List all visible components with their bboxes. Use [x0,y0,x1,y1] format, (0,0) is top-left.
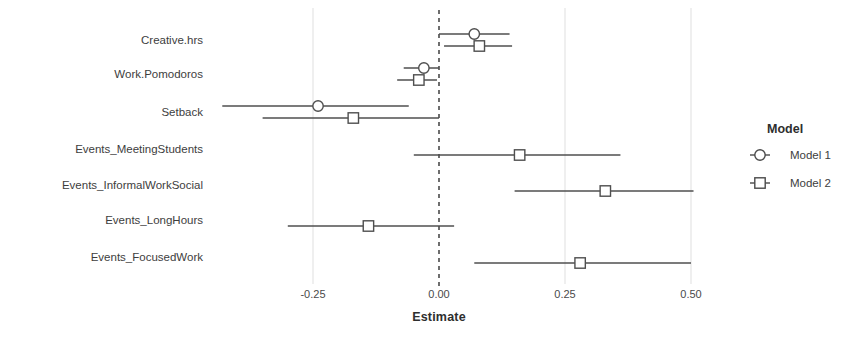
forest-plot: Creative.hrsWork.PomodorosSetbackEvents_… [0,0,851,341]
square-marker-icon[interactable] [755,178,765,188]
y-tick-label: Events_InformalWorkSocial [62,179,203,191]
square-marker-icon [348,113,358,123]
x-tick-label: 0.25 [554,288,575,300]
legend-title: Model [767,122,803,136]
square-marker-icon [414,75,424,85]
circle-marker-icon [313,101,323,111]
y-tick-label: Setback [161,106,203,118]
square-marker-icon [474,41,484,51]
circle-marker-icon [419,63,429,73]
x-tick-label: -0.25 [300,288,325,300]
circle-marker-icon [469,29,479,39]
y-tick-label: Events_FocusedWork [91,251,203,263]
square-marker-icon [600,186,610,196]
x-axis-title: Estimate [412,310,466,324]
square-marker-icon [363,221,373,231]
y-tick-label: Creative.hrs [141,34,203,46]
circle-marker-icon[interactable] [755,150,765,160]
y-tick-label: Work.Pomodoros [114,68,203,80]
square-marker-icon [575,258,585,268]
y-tick-label: Events_LongHours [105,214,203,226]
square-marker-icon [514,150,524,160]
y-tick-label: Events_MeetingStudents [75,143,203,155]
legend-item-2[interactable]: Model 2 [790,177,831,189]
x-tick-label: 0.00 [428,288,449,300]
x-tick-label: 0.50 [680,288,701,300]
plot-canvas [0,0,851,341]
legend-item-1[interactable]: Model 1 [790,149,831,161]
